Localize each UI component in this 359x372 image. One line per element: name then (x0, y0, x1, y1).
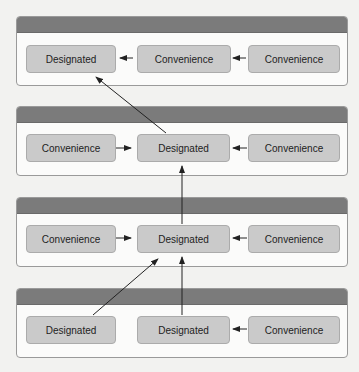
class-level-3-header (17, 198, 347, 214)
level-3-convenience-initializer-1: Convenience (26, 225, 116, 253)
class-level-3-panel: Convenience Designated Convenience (16, 197, 348, 267)
level-3-convenience-initializer-2: Convenience (248, 225, 340, 253)
level-4-convenience-initializer: Convenience (248, 316, 340, 344)
class-level-1-header (17, 17, 347, 33)
class-level-2-header (17, 107, 347, 123)
class-level-1-panel: Designated Convenience Convenience (16, 16, 348, 86)
class-level-2-panel: Convenience Designated Convenience (16, 106, 348, 176)
level-2-designated-initializer: Designated (137, 134, 230, 162)
class-level-4-panel: Designated Designated Convenience (16, 288, 348, 358)
level-3-designated-initializer: Designated (137, 225, 230, 253)
level-1-designated-initializer: Designated (26, 45, 116, 73)
level-4-designated-initializer-2: Designated (137, 316, 230, 344)
level-1-convenience-initializer-2: Convenience (248, 45, 340, 73)
class-level-4-header (17, 289, 347, 305)
level-2-convenience-initializer-1: Convenience (26, 134, 116, 162)
level-4-designated-initializer-1: Designated (26, 316, 116, 344)
level-1-convenience-initializer-1: Convenience (137, 45, 231, 73)
level-2-convenience-initializer-2: Convenience (248, 134, 340, 162)
